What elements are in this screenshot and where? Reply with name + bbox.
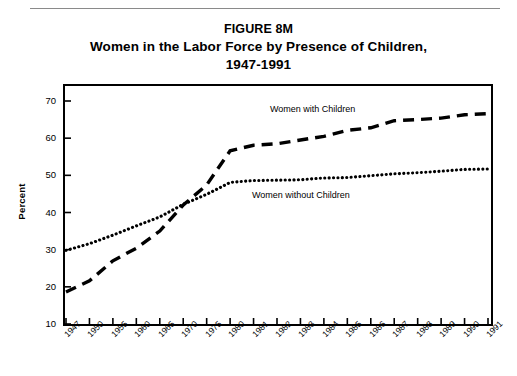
plot-frame [64, 85, 492, 325]
series-line-1 [66, 114, 488, 292]
series-annotation-2: Women without Children [252, 190, 350, 200]
line-chart: Percent 10203040506070194719501955196019… [0, 0, 517, 376]
y-axis-tick-label: 20 [32, 281, 56, 292]
y-axis-tick-label: 60 [32, 132, 56, 143]
series-annotation-1: Women with Children [270, 104, 355, 114]
plot-canvas [0, 0, 517, 376]
series-line-2 [66, 169, 488, 250]
y-axis-tick-label: 40 [32, 207, 56, 218]
y-axis-tick-label: 50 [32, 169, 56, 180]
y-axis-tick-label: 70 [32, 95, 56, 106]
y-axis-tick-label: 30 [32, 244, 56, 255]
y-axis-tick-label: 10 [32, 318, 56, 329]
figure-page: FIGURE 8M Women in the Labor Force by Pr… [0, 0, 517, 376]
